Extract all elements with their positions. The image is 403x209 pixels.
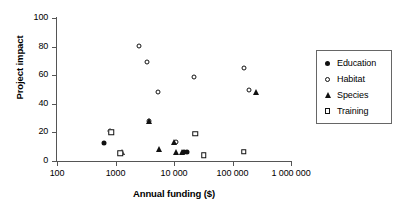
legend-item-label: Education — [337, 59, 376, 68]
data-point-education — [101, 141, 106, 146]
x-tick-mark — [291, 161, 292, 166]
legend-item-label: Species — [337, 91, 368, 100]
x-tick-mark — [116, 161, 117, 166]
data-point-training — [241, 149, 247, 155]
data-point-education — [184, 149, 189, 154]
x-axis-title: Annual funding ($) — [57, 188, 291, 199]
legend-item-habitat[interactable]: Habitat — [317, 71, 391, 87]
data-point-species — [146, 118, 152, 124]
data-point-habitat — [246, 87, 251, 92]
open-circle-icon — [323, 75, 332, 84]
data-point-species — [179, 149, 185, 155]
legend-item-species[interactable]: Species — [317, 87, 391, 103]
data-point-habitat — [192, 74, 197, 79]
x-tick-mark — [57, 161, 58, 166]
data-point-training — [192, 131, 198, 137]
x-tick-mark — [233, 161, 234, 166]
filled-circle-icon — [323, 59, 332, 68]
data-point-training — [201, 153, 207, 159]
x-tick-mark — [174, 161, 175, 166]
y-tick-label: 20 — [8, 127, 48, 136]
data-point-habitat — [242, 66, 247, 71]
y-axis-title: Project impact — [14, 13, 25, 123]
legend-item-training[interactable]: Training — [317, 103, 391, 119]
x-tick-label: 1 000 000 — [256, 169, 326, 178]
data-point-species — [171, 139, 177, 145]
data-point-habitat — [156, 90, 161, 95]
data-point-species — [156, 146, 162, 152]
filled-triangle-icon — [323, 91, 332, 100]
legend-item-label: Training — [337, 107, 368, 116]
data-point-training — [117, 150, 123, 156]
scatter-chart-figure: 020406080100 100100010 000100 0001 000 0… — [0, 0, 403, 209]
open-square-icon — [323, 107, 332, 116]
chart-legend: EducationHabitatSpeciesTraining — [316, 50, 392, 124]
legend-item-label: Habitat — [337, 75, 365, 84]
data-point-training — [109, 130, 115, 136]
data-point-species — [253, 89, 259, 95]
y-tick-label: 0 — [8, 156, 48, 165]
data-point-habitat — [136, 43, 141, 48]
data-point-habitat — [144, 59, 149, 64]
legend-item-education[interactable]: Education — [317, 55, 391, 71]
